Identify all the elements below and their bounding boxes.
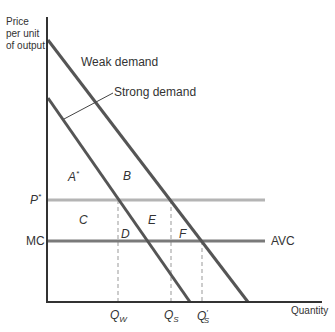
- region-f-label: F: [179, 228, 186, 240]
- y-axis-title-line-2: per unit: [6, 28, 45, 40]
- price-star-label: P*: [30, 193, 41, 206]
- price-label-star: *: [38, 192, 41, 201]
- region-a-main: A: [68, 170, 76, 184]
- qw-main: Q: [110, 308, 119, 322]
- price-label-main: P: [30, 193, 38, 207]
- qs-sub: S: [173, 315, 178, 324]
- region-a-star: *: [76, 169, 79, 178]
- x-axis-title: Quantity: [291, 306, 328, 316]
- qs-prime-sub: S: [204, 316, 209, 325]
- avc-label: AVC: [271, 235, 295, 247]
- qw-sub: W: [119, 315, 127, 324]
- region-c-label: C: [79, 214, 88, 226]
- qs-prime-label: Q′S: [197, 309, 209, 325]
- y-axis-title-line-1: Price: [6, 16, 45, 28]
- region-d-label: D: [121, 228, 130, 240]
- mc-label: MC: [26, 235, 45, 247]
- price-discrimination-diagram: [0, 0, 335, 332]
- qs-main: Q: [164, 308, 173, 322]
- qs-label: QS: [164, 309, 179, 324]
- y-axis-title: Price per unit of output: [6, 16, 45, 52]
- region-a-star-label: A*: [68, 170, 79, 183]
- y-axis-title-line-3: of output: [6, 40, 45, 52]
- strong-demand-label: Strong demand: [114, 86, 196, 98]
- region-e-label: E: [148, 214, 156, 226]
- region-b-label: B: [123, 170, 131, 182]
- qw-label: QW: [110, 309, 127, 324]
- weak-demand-label: Weak demand: [81, 56, 158, 68]
